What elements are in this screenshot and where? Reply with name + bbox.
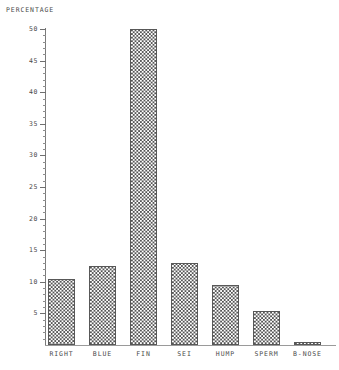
bar-sperm [253,311,280,345]
x-label-right: RIGHT [49,350,73,358]
x-axis-line [45,345,336,346]
y-tick-label: 30 [0,151,38,159]
chart-axis-title: PERCENTAGE [6,6,54,14]
y-tick-label: 15 [0,246,38,254]
bar-b-nose [294,342,321,345]
x-label-sperm: SPERM [254,350,278,358]
x-label-blue: BLUE [93,350,112,358]
bar-right [48,279,75,345]
bar-blue [89,266,116,345]
y-tick-label: 40 [0,88,38,96]
y-tick-label: 45 [0,57,38,65]
x-label-fin: FIN [136,350,150,358]
x-label-b-nose: B-NOSE [293,350,322,358]
y-tick-label: 25 [0,183,38,191]
y-tick-label: 50 [0,25,38,33]
y-tick-label: 10 [0,278,38,286]
bar-fin [130,29,157,345]
bars-container [46,29,334,345]
y-tick-label: 5 [0,309,38,317]
y-tick-label: 20 [0,215,38,223]
x-label-hump: HUMP [216,350,235,358]
x-label-sei: SEI [177,350,191,358]
y-tick-label: 35 [0,120,38,128]
bar-chart: PERCENTAGE 5045403530252015105 RIGHTBLUE… [0,0,339,370]
bar-hump [212,285,239,345]
bar-sei [171,263,198,345]
